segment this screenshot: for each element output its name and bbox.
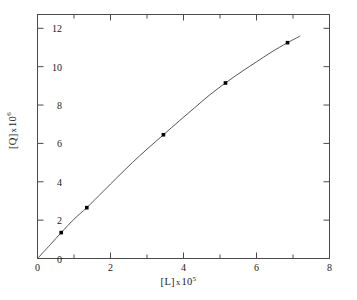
y-tick-label: 8 — [42, 100, 62, 111]
x-axis-title-base: [L] — [161, 276, 175, 287]
y-axis-title: [Q]x106 — [7, 86, 18, 176]
y-tick-label: 12 — [42, 23, 62, 34]
x-tick-label: 4 — [181, 262, 186, 273]
y-tick-label: 10 — [42, 61, 62, 72]
x-axis-title-power-base: 10 — [181, 276, 192, 287]
y-axis-title-power-exp: 6 — [5, 112, 13, 116]
y-axis-title-base: [Q] — [7, 134, 18, 149]
y-tick-label: 6 — [42, 138, 62, 149]
x-tick-label: 8 — [327, 262, 332, 273]
y-axis-title-times: x — [8, 127, 18, 134]
x-tick-label: 2 — [108, 262, 113, 273]
y-tick-label: 2 — [42, 215, 62, 226]
y-tick-label: 4 — [42, 176, 62, 187]
y-tick-label: 0 — [42, 253, 62, 264]
plot-frame — [37, 14, 330, 259]
x-tick-label: 6 — [254, 262, 259, 273]
x-axis-title-power-exp: 5 — [193, 275, 197, 283]
x-axis-title: [L]x105 — [0, 276, 357, 287]
figure-canvas: 02468 024681012 [L]x105 [Q]x106 — [0, 0, 357, 300]
x-tick-label: 0 — [35, 262, 40, 273]
y-axis-title-power-base: 10 — [7, 116, 18, 127]
